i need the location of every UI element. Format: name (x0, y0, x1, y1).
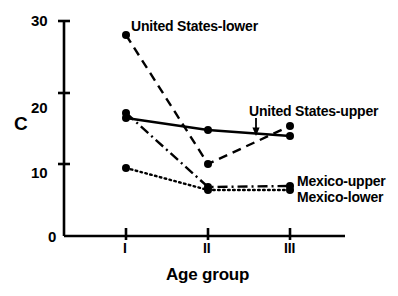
line-chart-figure: 30 20 10 0 C I II III Age group United S… (0, 0, 398, 296)
data-point-mexico-lower-I (122, 164, 130, 172)
data-point-us-upper-III (286, 132, 294, 140)
data-point-mexico-upper-I (122, 109, 130, 117)
data-point-us-upper-II (204, 126, 212, 134)
chart-plot-area (0, 0, 398, 296)
data-point-us-lower-II (204, 160, 212, 168)
data-point-mexico-lower-II (204, 186, 212, 194)
series-line-us-lower (126, 35, 290, 164)
x-axis-tick-label-II: II (203, 241, 210, 255)
series-label-united-states-lower: United States-lower (131, 19, 258, 33)
x-axis-title: Age group (166, 266, 249, 283)
data-point-us-lower-III (286, 122, 294, 130)
data-point-mexico-lower-III (286, 186, 294, 194)
y-axis-title: C (14, 114, 28, 133)
series-label-mexico-lower: Mexico-lower (297, 190, 383, 204)
x-axis-tick-label-III: III (284, 241, 295, 255)
y-axis-tick-label-30: 30 (31, 13, 47, 28)
series-line-mexico-upper (126, 113, 290, 187)
y-axis-tick-label-0: 0 (48, 229, 56, 244)
y-axis-tick-label-20: 20 (31, 100, 47, 115)
series-label-mexico-upper: Mexico-upper (297, 174, 386, 188)
series-mexico-lower (122, 164, 294, 194)
series-united-states-lower (122, 31, 294, 168)
x-axis-tick-label-I: I (123, 241, 127, 255)
series-label-united-states-upper: United States-upper (249, 104, 378, 118)
data-point-us-lower-I (122, 31, 130, 39)
y-axis-tick-label-10: 10 (31, 165, 47, 180)
x-axis-ticks (126, 228, 290, 240)
